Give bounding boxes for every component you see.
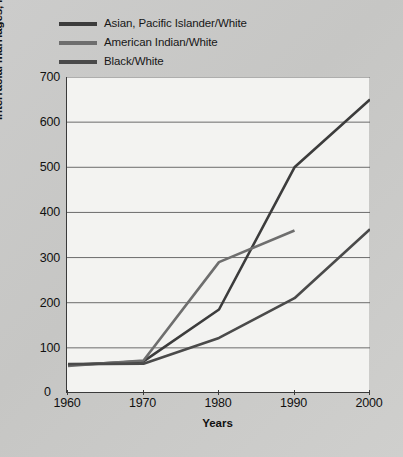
- series-line-1: [68, 230, 295, 365]
- x-tickmark: [218, 390, 219, 395]
- y-tick-500: 500: [20, 160, 60, 174]
- plot-svg: [67, 77, 370, 393]
- x-tickmark: [369, 390, 370, 395]
- y-axis-title: Interracial marriages, in thousands: [0, 0, 4, 120]
- y-tick-400: 400: [20, 205, 60, 219]
- series-line-0: [68, 100, 370, 365]
- y-tick-600: 600: [20, 115, 60, 129]
- legend-label-american-indian-white: American Indian/White: [104, 36, 218, 49]
- legend-swatch-black-white: [59, 60, 97, 64]
- legend-item-american-indian-white: American Indian/White: [59, 35, 247, 50]
- plot-area: [66, 77, 369, 393]
- y-axis-origin-label: 0: [44, 385, 51, 399]
- y-tick-700: 700: [20, 70, 60, 84]
- x-tick-1980: 1980: [204, 396, 231, 410]
- x-tickmark: [143, 390, 144, 395]
- y-axis-tick-labels: 100200300400500600700: [18, 77, 60, 393]
- x-tick-2000: 2000: [355, 396, 382, 410]
- x-tick-1970: 1970: [129, 396, 156, 410]
- y-tick-200: 200: [20, 296, 60, 310]
- legend-label-asian-pacific-islander-white: Asian, Pacific Islander/White: [104, 17, 247, 30]
- y-tick-100: 100: [20, 341, 60, 355]
- legend-swatch-asian-pacific-islander-white: [59, 22, 97, 26]
- chart-legend: Asian, Pacific Islander/White American I…: [59, 16, 247, 69]
- chart-figure: Asian, Pacific Islander/White American I…: [0, 0, 403, 457]
- x-tickmark: [67, 390, 68, 395]
- x-tickmark: [294, 390, 295, 395]
- legend-swatch-american-indian-white: [59, 41, 97, 45]
- series-line-2: [68, 229, 370, 364]
- legend-item-asian-pacific-islander-white: Asian, Pacific Islander/White: [59, 16, 247, 31]
- x-tick-1960: 1960: [53, 396, 80, 410]
- x-tick-1990: 1990: [280, 396, 307, 410]
- x-axis-title: Years: [66, 417, 369, 429]
- y-tick-300: 300: [20, 251, 60, 265]
- x-axis-tick-labels: 19601970198019902000: [66, 396, 369, 416]
- legend-label-black-white: Black/White: [104, 55, 164, 68]
- legend-item-black-white: Black/White: [59, 54, 247, 69]
